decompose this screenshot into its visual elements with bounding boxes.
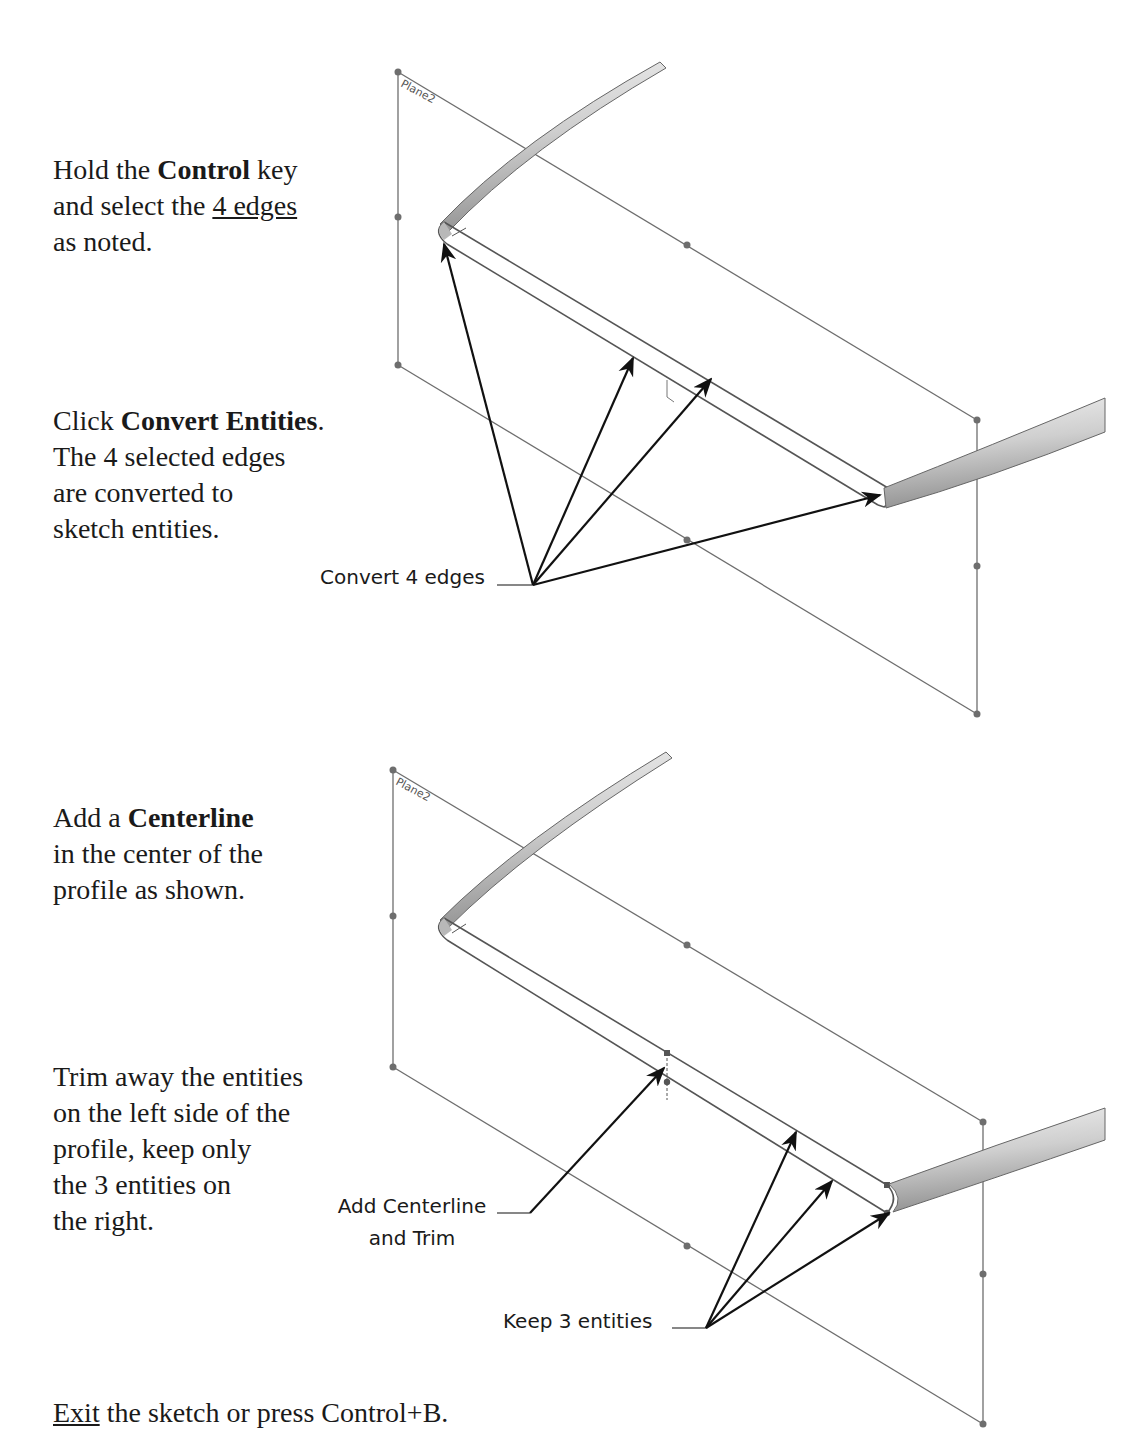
bold-term-centerline: Centerline (128, 802, 254, 833)
sweep-tube-upper-2 (440, 752, 672, 928)
centerline-endpoints[interactable] (664, 1050, 890, 1216)
sweep-tube-right-2 (889, 1108, 1105, 1212)
text: the sketch or press Control+B. (100, 1397, 449, 1428)
text: as noted. (53, 224, 297, 260)
plane-outline-2 (393, 770, 983, 1424)
text: profile, keep only (53, 1131, 303, 1167)
text: Add a (53, 802, 128, 833)
text: profile as shown. (53, 872, 263, 908)
underlined-term-exit: Exit (53, 1397, 100, 1428)
text: Trim away the entities (53, 1059, 303, 1095)
text: in the center of the (53, 836, 263, 872)
underlined-term: 4 edges (212, 190, 297, 221)
profile-body-2[interactable] (439, 918, 894, 1213)
text: and select the (53, 190, 212, 221)
text: and Trim (328, 1222, 496, 1254)
text: Add Centerline (328, 1190, 496, 1222)
callout-arrow-centerline (497, 1068, 664, 1213)
text: The 4 selected edges (53, 439, 324, 475)
step1-instruction-convert: Click Convert Entities. The 4 selected e… (53, 403, 324, 547)
callout-arrows-keep (672, 1132, 889, 1328)
callout-convert-4-edges: Convert 4 edges (320, 561, 485, 593)
step2-instruction-trim: Trim away the entities on the left side … (53, 1059, 303, 1239)
plane-label-2: Plane2 (394, 775, 433, 804)
text: Click (53, 405, 121, 436)
step1-instruction-select: Hold the Control key and select the 4 ed… (53, 152, 297, 260)
bold-term-convert-entities: Convert Entities (121, 405, 318, 436)
text: the 3 entities on (53, 1167, 303, 1203)
text: on the left side of the (53, 1095, 303, 1131)
text: Hold the (53, 154, 157, 185)
callout-add-centerline: Add Centerline and Trim (328, 1190, 496, 1254)
text: are converted to (53, 475, 324, 511)
bold-term-control: Control (157, 154, 250, 185)
text: key (250, 154, 297, 185)
text: . (317, 405, 324, 436)
text: the right. (53, 1203, 303, 1239)
text: sketch entities. (53, 511, 324, 547)
callout-keep-3-entities: Keep 3 entities (503, 1305, 652, 1337)
footer-instruction-exit: Exit the sketch or press Control+B. (53, 1395, 448, 1431)
step2-instruction-centerline: Add a Centerline in the center of the pr… (53, 800, 263, 908)
